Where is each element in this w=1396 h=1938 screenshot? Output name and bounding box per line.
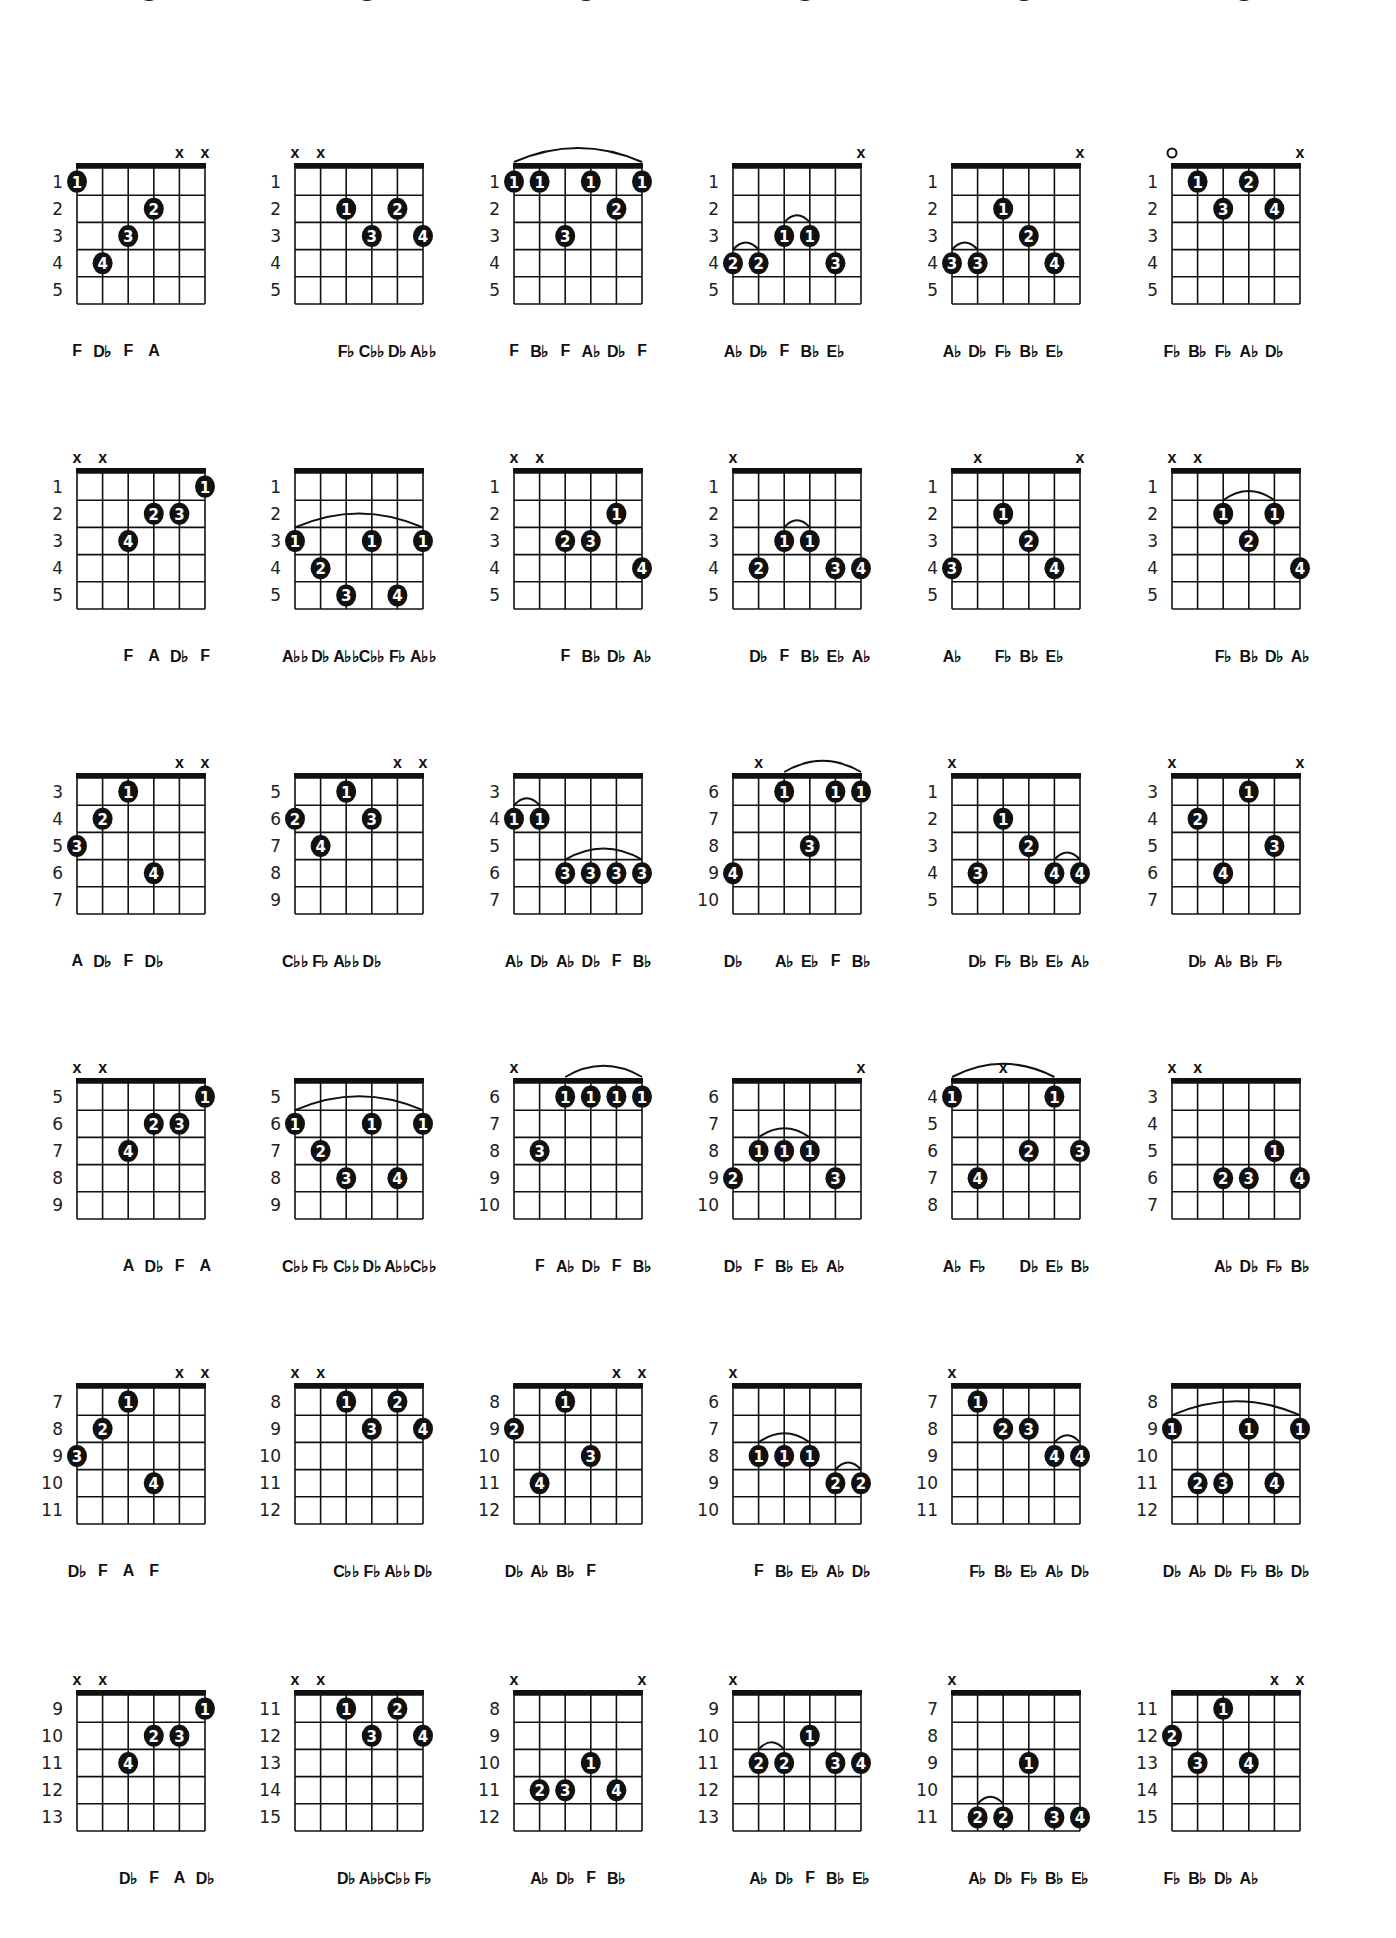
note-name-label: D♭ [852, 1562, 871, 1581]
svg-text:2: 2 [392, 1394, 402, 1412]
svg-text:2: 2 [611, 201, 621, 219]
finger-dot: 2 [144, 1113, 164, 1135]
fret-number: 9 [708, 1473, 719, 1493]
muted-string-x-icon: x [1296, 754, 1305, 771]
barre-arc [514, 148, 642, 162]
note-name-label: E♭ [852, 1869, 870, 1888]
note-names-row: D♭FB♭E♭A♭ [708, 647, 928, 671]
finger-dot: 1 [581, 1086, 601, 1108]
fret-number: 8 [52, 1168, 63, 1188]
finger-dot: 1 [774, 781, 794, 803]
fret-number: 11 [259, 1699, 281, 1719]
barre-arc [1172, 1401, 1300, 1415]
svg-text:3: 3 [1192, 1755, 1202, 1773]
note-name-label: A♭♭ [384, 1257, 410, 1276]
svg-text:1: 1 [805, 1143, 815, 1161]
note-name-label: F [175, 1257, 184, 1275]
note-names-row: AD♭FD♭ [52, 952, 272, 976]
fret-number: 5 [489, 836, 500, 856]
fret-number: 2 [52, 199, 63, 219]
muted-string-x-icon: x [201, 754, 210, 771]
svg-text:2: 2 [1218, 1170, 1228, 1188]
finger-dot: 2 [749, 557, 769, 579]
fretboard-grid: 1112131415xx1234 [270, 1667, 490, 1872]
fret-number: 10 [41, 1726, 63, 1746]
note-names-row: F♭B♭D♭A♭ [1147, 647, 1367, 671]
fret-number: 4 [489, 809, 500, 829]
note-name-label: E♭ [1046, 1257, 1064, 1276]
fret-number: 3 [1147, 226, 1158, 246]
chord-diagram: 89101112xx1234A♭D♭FB♭ [489, 1667, 709, 1907]
fretboard-grid: 12345xx1124 [1147, 445, 1367, 650]
finger-dot: 2 [387, 1391, 407, 1413]
finger-dot: 1 [67, 171, 87, 193]
note-name-label: E♭ [1046, 647, 1064, 666]
fret-number: 12 [1136, 1500, 1158, 1520]
svg-text:4: 4 [123, 1755, 133, 1773]
finger-dot: 3 [942, 252, 962, 274]
svg-text:1: 1 [1269, 506, 1279, 524]
fret-number: 8 [1147, 1392, 1158, 1412]
note-name-label: D♭ [530, 952, 549, 971]
svg-text:1: 1 [418, 1116, 428, 1134]
note-name-label: F♭ [995, 342, 1012, 361]
svg-text:3: 3 [560, 228, 570, 246]
finger-dot: 1 [530, 808, 550, 830]
svg-text:2: 2 [728, 255, 738, 273]
note-name-label: B♭ [633, 952, 652, 971]
chord-diagram: 7891011x12344F♭B♭E♭A♭D♭ [927, 1360, 1147, 1600]
svg-text:1: 1 [1049, 1089, 1059, 1107]
barre-arc [565, 848, 642, 859]
finger-dot: 1 [993, 808, 1013, 830]
fret-number: 8 [270, 863, 281, 883]
muted-string-x-icon: x [1193, 1059, 1202, 1076]
finger-dot: 1 [336, 781, 356, 803]
chord-diagram: 12345x12344D♭F♭B♭E♭A♭ [927, 750, 1147, 990]
svg-text:3: 3 [72, 1448, 82, 1466]
finger-dot: 2 [387, 198, 407, 220]
note-names-row: A♭D♭F♭B♭E♭ [927, 342, 1147, 366]
svg-text:3: 3 [560, 1782, 570, 1800]
muted-string-x-icon: x [1296, 1671, 1305, 1688]
svg-text:3: 3 [972, 255, 982, 273]
svg-text:2: 2 [998, 1421, 1008, 1439]
svg-text:2: 2 [392, 201, 402, 219]
fret-number: 1 [489, 477, 500, 497]
finger-dot: 1 [632, 1086, 652, 1108]
fret-number: 12 [1136, 1726, 1158, 1746]
svg-text:1: 1 [805, 1448, 815, 1466]
chord-diagram: 12345xx1234FD♭FA [52, 140, 272, 380]
fret-number: 10 [1136, 1446, 1158, 1466]
finger-dot: 1 [555, 1086, 575, 1108]
chord-diagram: 12345x11234D♭FB♭E♭A♭ [708, 445, 928, 685]
finger-dot: 1 [1188, 171, 1208, 193]
svg-text:1: 1 [637, 174, 647, 192]
muted-string-x-icon: x [316, 1671, 325, 1688]
svg-text:2: 2 [1024, 228, 1034, 246]
note-name-label: D♭ [68, 1562, 87, 1581]
svg-text:2: 2 [753, 1755, 763, 1773]
note-names-row: A♭D♭FB♭E♭ [708, 342, 928, 366]
finger-dot: 2 [993, 1418, 1013, 1440]
svg-text:2: 2 [1024, 533, 1034, 551]
chord-diagram: 12345xx1234FAD♭F [52, 445, 272, 685]
svg-text:4: 4 [534, 1475, 544, 1493]
svg-text:4: 4 [418, 1728, 428, 1746]
finger-dot: 3 [362, 1418, 382, 1440]
fret-number: 1 [927, 782, 938, 802]
muted-string-x-icon: x [201, 144, 210, 161]
fret-number: 10 [478, 1446, 500, 1466]
fret-number: 5 [927, 890, 938, 910]
note-name-label: E♭ [1020, 1562, 1038, 1581]
svg-text:4: 4 [315, 838, 325, 856]
note-name-label: F♭ [389, 647, 406, 666]
svg-text:4: 4 [392, 1170, 402, 1188]
note-name-label: B♭ [801, 647, 820, 666]
fret-number: 9 [52, 1699, 63, 1719]
note-name-label: F [535, 1257, 544, 1275]
finger-dot: 2 [968, 1806, 988, 1828]
svg-text:3: 3 [1244, 1170, 1254, 1188]
note-names-row: A♭D♭FB♭ [489, 1869, 709, 1893]
note-name-label: F [72, 342, 81, 360]
muted-string-x-icon: x [729, 1671, 738, 1688]
